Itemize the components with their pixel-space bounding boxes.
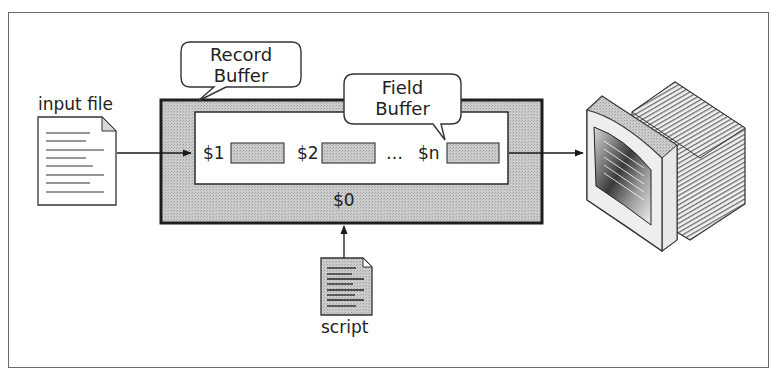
field-slot-2: [322, 143, 375, 163]
record-buffer-label: $0: [333, 191, 355, 210]
field-slot-n: [447, 143, 499, 163]
record-buffer-callout-text: Record Buffer: [181, 44, 301, 86]
field-label-n: $n: [418, 144, 440, 163]
document-icon: [38, 117, 116, 205]
script-document-icon: [321, 258, 372, 315]
field-label-2: $2: [297, 144, 319, 163]
field-slot-1: [231, 143, 284, 163]
diagram-canvas: [0, 0, 781, 377]
field-buffer-callout-line2: Buffer: [344, 98, 461, 119]
field-buffer-callout-line1: Field: [344, 77, 461, 98]
record-buffer-callout-line2: Buffer: [181, 65, 301, 86]
field-label-1: $1: [203, 144, 225, 163]
record-buffer-callout-line1: Record: [181, 44, 301, 65]
input-file-label: input file: [38, 95, 113, 114]
field-ellipsis: …: [386, 144, 403, 163]
field-buffer-callout-text: Field Buffer: [344, 77, 461, 119]
monitor-icon: [587, 82, 745, 251]
script-label: script: [321, 318, 368, 337]
